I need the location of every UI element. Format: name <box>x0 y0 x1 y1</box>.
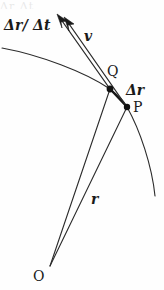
trajectory-curve <box>2 48 155 196</box>
label-velocity-v: v <box>84 29 92 43</box>
label-position-r: r <box>91 192 98 206</box>
diagram-canvas <box>0 0 164 290</box>
position-vector-to-p-line <box>50 107 127 266</box>
label-delta-r: Δr <box>126 83 144 97</box>
label-point-p: P <box>133 100 142 114</box>
position-vector-to-q-line <box>50 89 110 266</box>
physics-vector-diagram: Δr Δt Δr/ Δt v Q Δr P r O <box>0 0 164 290</box>
label-delta-r-over-delta-t: Δr/ Δt <box>4 18 51 32</box>
point-p-marker <box>124 104 130 110</box>
point-q-marker <box>107 86 114 93</box>
label-origin-o: O <box>33 269 44 283</box>
label-point-q: Q <box>107 64 118 78</box>
